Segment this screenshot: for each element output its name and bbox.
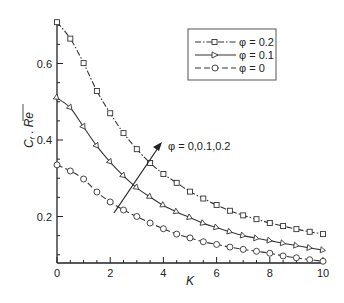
triangle-marker-icon xyxy=(80,123,85,129)
triangle-marker-icon xyxy=(240,232,245,238)
triangle-marker-icon xyxy=(280,240,285,246)
x-axis-title: K xyxy=(186,274,195,288)
square-marker-icon xyxy=(201,196,206,201)
circle-marker-icon xyxy=(214,241,220,247)
triangle-marker-icon xyxy=(294,242,299,248)
circle-marker-icon xyxy=(147,220,153,226)
triangle-marker-icon xyxy=(173,208,179,213)
circle-marker-icon xyxy=(307,257,313,263)
square-marker-icon xyxy=(161,172,166,177)
y-tick-label: 0.2 xyxy=(37,211,52,223)
circle-marker-icon xyxy=(107,199,113,205)
circle-marker-icon xyxy=(81,176,87,182)
circle-marker-icon xyxy=(320,258,326,264)
circle-marker-icon xyxy=(134,214,140,220)
y-title-main: C xyxy=(22,139,36,148)
square-marker-icon xyxy=(227,208,232,213)
legend-label: φ = 0.2 xyxy=(239,36,274,48)
x-tick-label: 0 xyxy=(54,267,60,279)
square-marker-icon xyxy=(188,189,193,194)
annotation: φ = 0,0.1,0.2 xyxy=(114,140,230,213)
square-marker-icon xyxy=(134,147,139,152)
triangle-marker-icon xyxy=(53,94,59,99)
triangle-marker-icon xyxy=(187,214,193,220)
arrowhead-icon xyxy=(153,142,162,151)
square-marker-icon xyxy=(321,232,326,237)
circle-marker-icon xyxy=(212,65,218,71)
x-tick-label: 4 xyxy=(160,267,166,279)
square-marker-icon xyxy=(121,131,126,136)
legend: φ = 0.2 φ = 0.1 φ = 0 xyxy=(188,29,276,80)
square-marker-icon xyxy=(212,40,217,45)
square-marker-icon xyxy=(281,224,286,229)
triangle-marker-icon xyxy=(267,237,272,243)
square-marker-icon xyxy=(94,89,99,94)
square-marker-icon xyxy=(254,217,259,222)
y-axis-title: Cf . Re xyxy=(22,104,36,148)
circle-marker-icon xyxy=(160,226,166,232)
circle-marker-icon xyxy=(54,162,60,168)
series-line xyxy=(57,165,323,261)
circle-marker-icon xyxy=(254,248,260,254)
annotation-arrow xyxy=(114,145,160,213)
triangle-marker-icon xyxy=(213,224,218,230)
triangle-marker-icon xyxy=(93,142,98,148)
triangle-marker-icon xyxy=(254,235,259,241)
x-tick-label: 6 xyxy=(214,267,220,279)
circle-marker-icon xyxy=(174,231,180,237)
circle-marker-icon xyxy=(94,189,100,195)
circle-marker-icon xyxy=(240,246,246,252)
legend-label: φ = 0.1 xyxy=(239,49,274,61)
circle-marker-icon xyxy=(280,253,286,259)
circle-marker-icon xyxy=(267,250,273,256)
x-tick-label: 10 xyxy=(317,267,329,279)
chart-canvas: 02468100.20.40.6 φ = 0,0.1,0.2 φ = 0.2 φ… xyxy=(0,0,344,303)
circle-marker-icon xyxy=(293,255,299,261)
triangle-marker-icon xyxy=(227,228,232,234)
square-marker-icon xyxy=(241,213,246,218)
x-tick-label: 2 xyxy=(107,267,113,279)
y-title-root: Re xyxy=(22,112,36,128)
y-tick-label: 0.4 xyxy=(37,134,52,146)
x-tick-label: 8 xyxy=(267,267,273,279)
legend-label: φ = 0 xyxy=(239,62,265,74)
y-tick-label: 0.6 xyxy=(37,58,52,70)
circle-marker-icon xyxy=(200,239,206,245)
circle-marker-icon xyxy=(187,235,193,241)
annotation-label: φ = 0,0.1,0.2 xyxy=(168,140,230,152)
square-marker-icon xyxy=(267,221,272,226)
series-circle xyxy=(54,162,326,264)
triangle-marker-icon xyxy=(307,245,312,251)
svg-text:Cf . Re: Cf . Re xyxy=(22,112,36,148)
circle-marker-icon xyxy=(227,244,233,250)
square-marker-icon xyxy=(214,203,219,208)
circle-marker-icon xyxy=(67,168,73,174)
square-marker-icon xyxy=(294,227,299,232)
square-marker-icon xyxy=(174,180,179,185)
square-marker-icon xyxy=(307,229,312,234)
square-marker-icon xyxy=(55,20,60,25)
triangle-marker-icon xyxy=(200,220,206,226)
circle-marker-icon xyxy=(121,207,127,213)
triangle-marker-icon xyxy=(320,247,325,253)
square-marker-icon xyxy=(81,61,86,66)
square-marker-icon xyxy=(108,111,113,116)
square-marker-icon xyxy=(68,36,73,41)
